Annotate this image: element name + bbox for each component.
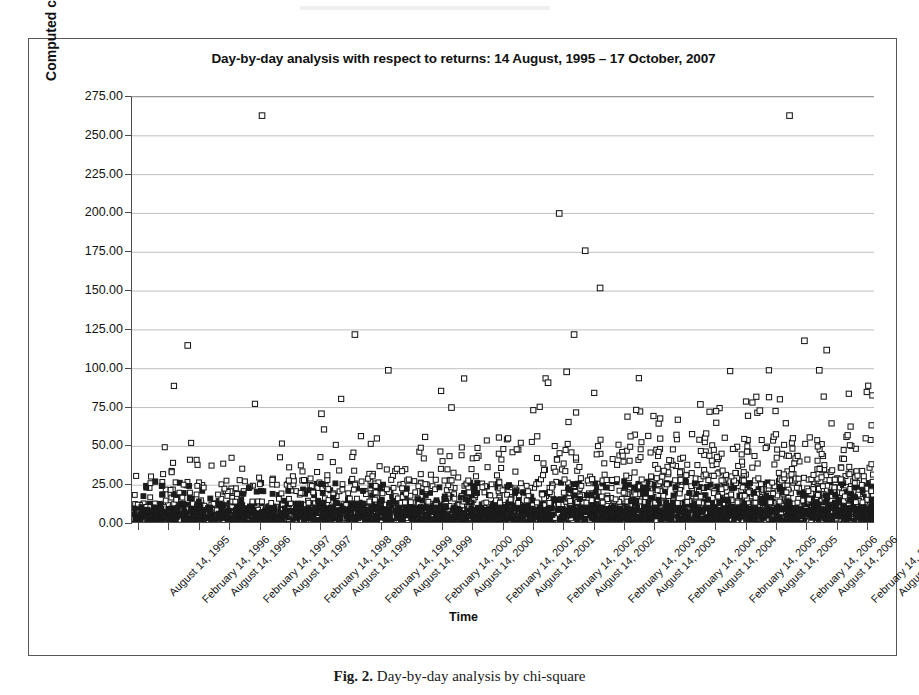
x-axis-tick-mark bbox=[837, 523, 838, 530]
x-axis-tick-mark bbox=[229, 523, 230, 530]
x-axis-tick-labels: August 14, 1995February 14, 1996August 1… bbox=[131, 523, 874, 609]
x-axis-title: Time bbox=[29, 610, 898, 624]
y-axis-tick-label: 150.00 bbox=[85, 283, 123, 297]
scan-artifact-top bbox=[300, 6, 550, 10]
y-axis-tick-label: 50.00 bbox=[92, 438, 123, 452]
y-axis-tick-label: 100.00 bbox=[85, 361, 123, 375]
x-axis-tick-mark bbox=[563, 523, 564, 530]
y-axis-tick-label: 250.00 bbox=[85, 128, 123, 142]
y-axis-tick-label: 75.00 bbox=[92, 400, 123, 414]
x-axis-tick-mark bbox=[290, 523, 291, 530]
x-axis-tick-mark bbox=[654, 523, 655, 530]
x-axis-tick-mark bbox=[503, 523, 504, 530]
figure-caption-label: Fig. 2. bbox=[333, 668, 373, 684]
x-axis-tick-mark bbox=[411, 523, 412, 530]
x-axis-tick-mark bbox=[260, 523, 261, 530]
y-axis-tick-label: 0.00 bbox=[99, 516, 123, 530]
x-axis-tick-mark bbox=[199, 523, 200, 530]
scatter-plot-canvas bbox=[132, 97, 874, 523]
x-axis-tick-mark bbox=[746, 523, 747, 530]
x-axis-tick-mark bbox=[381, 523, 382, 530]
y-axis-tick-labels: 0.0025.0050.0075.00100.00125.00150.00175… bbox=[39, 96, 123, 523]
x-axis-tick-mark bbox=[685, 523, 686, 530]
x-axis-tick-mark bbox=[320, 523, 321, 530]
x-axis-tick-mark bbox=[138, 523, 139, 530]
y-axis-tick-label: 25.00 bbox=[92, 477, 123, 491]
x-axis-tick-mark bbox=[624, 523, 625, 530]
y-axis-tick-label: 125.00 bbox=[85, 322, 123, 336]
figure-frame: Day-by-day analysis with respect to retu… bbox=[28, 38, 897, 656]
x-axis-tick-mark bbox=[867, 523, 868, 530]
x-axis-tick-mark bbox=[594, 523, 595, 530]
figure-caption-text: Day-by-day analysis by chi-square bbox=[377, 668, 586, 684]
y-axis-tick-label: 175.00 bbox=[85, 244, 123, 258]
x-axis-tick-mark bbox=[715, 523, 716, 530]
chart-title: Day-by-day analysis with respect to retu… bbox=[29, 51, 898, 66]
x-axis-tick-mark bbox=[168, 523, 169, 530]
x-axis-tick-mark bbox=[776, 523, 777, 530]
x-axis-tick-mark bbox=[806, 523, 807, 530]
y-axis-tick-label: 225.00 bbox=[85, 167, 123, 181]
y-axis-tick-label: 275.00 bbox=[85, 89, 123, 103]
figure-caption: Fig. 2. Day-by-day analysis by chi-squar… bbox=[0, 668, 919, 695]
x-axis-tick-mark bbox=[442, 523, 443, 530]
x-axis-tick-mark bbox=[472, 523, 473, 530]
plot-area bbox=[131, 96, 874, 523]
y-axis-tick-label: 200.00 bbox=[85, 205, 123, 219]
x-axis-tick-mark bbox=[533, 523, 534, 530]
x-axis-tick-mark bbox=[351, 523, 352, 530]
